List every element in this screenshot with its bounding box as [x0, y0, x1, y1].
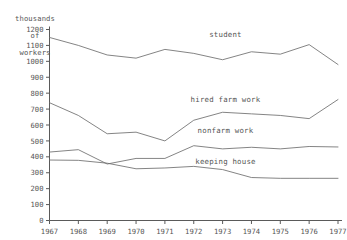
x-tick-label: 1976 [300, 227, 317, 236]
y-tick-label: 800 [31, 89, 44, 98]
y-tick-label: 900 [31, 73, 44, 82]
y-tick-label: 100 [31, 200, 44, 209]
y-tick-label: 1000 [26, 57, 43, 66]
series-label-nonfarm-work: nonfarm work [198, 126, 254, 135]
y-tick-label: 1100 [26, 41, 43, 50]
series-lines [50, 37, 339, 178]
plot-area: 0100200300400500600700800900100011001200… [0, 0, 347, 240]
x-tick-label: 1972 [185, 227, 202, 236]
series-labels: studenthired farm worknonfarm workkeepin… [191, 30, 261, 167]
y-axis: 0100200300400500600700800900100011001200 [26, 25, 49, 225]
series-line-keeping-house [50, 160, 339, 178]
x-tick-label: 1969 [99, 227, 116, 236]
y-tick-label: 500 [31, 137, 44, 146]
x-tick-label: 1973 [214, 227, 231, 236]
y-tick-label: 1200 [26, 25, 43, 34]
x-tick-label: 1968 [70, 227, 87, 236]
line-chart: 0100200300400500600700800900100011001200… [0, 0, 347, 240]
series-line-hired-farm-work [50, 100, 339, 141]
y-tick-label: 0 [39, 216, 43, 225]
series-line-nonfarm-work [50, 146, 339, 164]
chart-root: thousands of workers 0100200300400500600… [0, 0, 347, 240]
series-label-keeping-house: keeping house [195, 157, 256, 166]
series-label-hired-farm-work: hired farm work [191, 95, 261, 104]
y-tick-label: 700 [31, 105, 44, 114]
y-tick-label: 300 [31, 168, 44, 177]
series-label-student: student [209, 30, 242, 39]
x-tick-label: 1967 [41, 227, 58, 236]
x-tick-label: 1975 [272, 227, 289, 236]
x-tick-label: 1977 [329, 227, 346, 236]
x-axis: 1967196819691970197119721973197419751976… [41, 221, 347, 236]
x-tick-label: 1971 [156, 227, 173, 236]
y-tick-label: 200 [31, 184, 44, 193]
y-tick-label: 600 [31, 121, 44, 130]
x-tick-label: 1974 [243, 227, 260, 236]
x-tick-label: 1970 [127, 227, 144, 236]
y-tick-label: 400 [31, 152, 44, 161]
series-line-student [50, 37, 339, 64]
